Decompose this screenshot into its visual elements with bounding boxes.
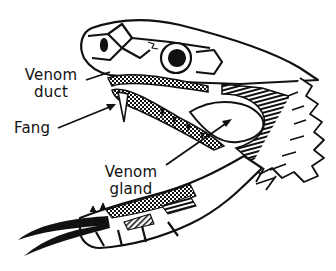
venom-gland-label-line1: Venom [96,164,166,181]
fang-label-line1: Fang [14,120,64,137]
venom-gland-shape [112,89,263,150]
venom-gland-label: Venom gland [96,164,166,198]
venom-duct-label-line2: duct [16,84,86,101]
fang-leader [58,106,112,128]
fang [118,92,128,122]
fang-label: Fang [14,120,64,137]
venom-duct-label: Venom duct [16,67,86,101]
venom-gland-label-line2: gland [96,181,166,198]
upper-head [81,20,318,84]
venom-duct-leader [86,72,110,80]
venom-duct-label-line1: Venom [16,67,86,84]
